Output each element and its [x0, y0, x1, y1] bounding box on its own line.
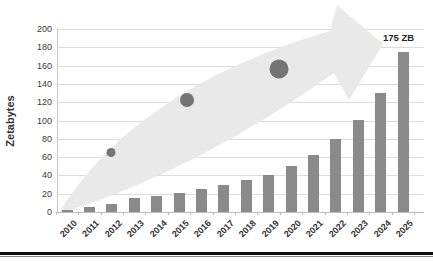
trend-dot-medium	[180, 93, 194, 107]
y-tick-label-0: 0	[22, 207, 52, 217]
y-tick-label-200: 200	[22, 24, 52, 34]
chart: Zetabytes 200180160140120100806040200 20…	[0, 0, 433, 262]
bar-2012	[106, 204, 117, 212]
bar-2011	[84, 207, 95, 212]
bar-2017	[218, 185, 229, 212]
y-tick-label-120: 120	[22, 97, 52, 107]
bar-2010	[62, 210, 73, 212]
bottom-border-line	[0, 252, 433, 255]
trend-dot-small	[107, 148, 116, 157]
bottom-border-shadow-line	[0, 256, 433, 257]
x-axis-line	[57, 212, 424, 213]
bar-2022	[330, 139, 341, 212]
bar-2015	[174, 193, 185, 212]
y-tick-label-160: 160	[22, 61, 52, 71]
y-tick-label-20: 20	[22, 189, 52, 199]
bar-2024	[375, 93, 386, 212]
peak-value-label: 175 ZB	[383, 32, 423, 43]
bar-2013	[129, 198, 140, 212]
bar-2014	[151, 196, 162, 212]
bar-2019	[263, 175, 274, 212]
bar-2016	[196, 189, 207, 212]
bar-2023	[353, 120, 364, 212]
y-tick-label-80: 80	[22, 134, 52, 144]
y-tick-label-60: 60	[22, 152, 52, 162]
y-tick-label-140: 140	[22, 79, 52, 89]
y-tick-label-40: 40	[22, 170, 52, 180]
bar-2025	[398, 52, 409, 212]
bar-2018	[241, 180, 252, 212]
bar-2021	[308, 155, 319, 212]
y-tick-label-100: 100	[22, 116, 52, 126]
y-tick-label-180: 180	[22, 42, 52, 52]
bar-2020	[286, 166, 297, 212]
trend-dot-large	[270, 60, 289, 79]
